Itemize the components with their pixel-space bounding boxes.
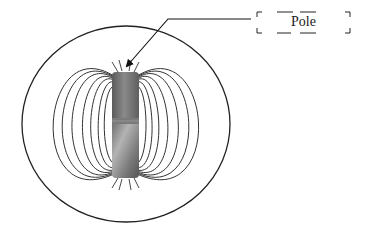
pole-label: Pole [291,15,316,29]
diagram-canvas [0,0,368,232]
field-line [62,71,114,177]
field-line [137,74,178,175]
field-lines-right [137,69,199,180]
magnet-south-half [112,120,139,178]
field-line [98,82,114,168]
pole-pointer-arrow [127,19,251,66]
bar-magnet [112,72,139,178]
magnet-diagram: Pole [0,0,368,232]
magnet-north-half [112,72,139,124]
field-line [137,82,152,168]
field-line [72,74,114,175]
pole-label-box: Pole [257,10,350,34]
field-lines-left [53,69,114,180]
